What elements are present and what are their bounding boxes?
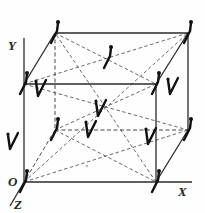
crystal-lattice-diagram: Y X Z O	[0, 0, 205, 213]
bottom-face-diagonal-2	[55, 130, 156, 182]
lattice-svg: Y X Z O	[0, 0, 205, 213]
edge-top-right-depth	[156, 33, 188, 84]
dipole-face-bottom-icon	[6, 132, 18, 149]
body-diagonal-2	[55, 33, 156, 182]
z-axis-label: Z	[13, 197, 22, 212]
dipole-corner-back-bottom-left-icon	[51, 117, 60, 140]
hidden-edge-bottom-left-depth	[24, 130, 55, 182]
body-diagonal-4	[55, 84, 156, 130]
edge-top-left-depth	[24, 33, 55, 84]
dipole-corner-back-top-left-icon	[51, 20, 60, 43]
y-axis-label: Y	[8, 38, 17, 53]
dipole-face-left-icon	[34, 79, 46, 96]
body-diagonal-1	[24, 33, 188, 182]
x-axis-label: X	[177, 184, 187, 199]
dipole-face-right-icon	[166, 77, 178, 94]
dipole-face-back-icon	[144, 127, 156, 144]
origin-label: O	[8, 174, 18, 189]
top-face-diagonal-2	[55, 33, 156, 84]
dipole-face-front-icon	[84, 120, 96, 137]
faint-dot-mark	[86, 165, 88, 167]
edge-bottom-right-depth	[156, 130, 188, 182]
